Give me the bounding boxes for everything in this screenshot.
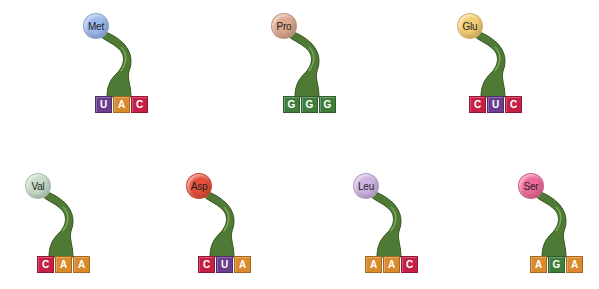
nucleotide-A: A [530,256,547,273]
nucleotide-A: A [365,256,382,273]
trna-ser: SerAGA [518,173,588,283]
anticodon: AGA [530,256,583,273]
amino-acid-val: Val [25,173,51,199]
anticodon: UAC [95,96,148,113]
trna-pro: ProGGG [271,13,341,123]
nucleotide-U: U [487,96,504,113]
amino-acid-leu: Leu [353,173,379,199]
nucleotide-G: G [283,96,300,113]
nucleotide-C: C [37,256,54,273]
amino-acid-met: Met [83,13,109,39]
nucleotide-C: C [131,96,148,113]
trna-asp: AspCUA [186,173,256,283]
anticodon: GGG [283,96,336,113]
amino-acid-glu: Glu [457,13,483,39]
nucleotide-G: G [301,96,318,113]
trna-met: MetUAC [83,13,153,123]
trna-val: ValCAA [25,173,95,283]
trna-glu: GluCUC [457,13,527,123]
nucleotide-G: G [319,96,336,113]
nucleotide-A: A [55,256,72,273]
nucleotide-A: A [383,256,400,273]
nucleotide-A: A [113,96,130,113]
nucleotide-C: C [469,96,486,113]
trna-leu: LeuAAC [353,173,423,283]
anticodon: CUA [198,256,251,273]
nucleotide-A: A [566,256,583,273]
nucleotide-U: U [95,96,112,113]
nucleotide-A: A [73,256,90,273]
nucleotide-C: C [198,256,215,273]
amino-acid-ser: Ser [518,173,544,199]
amino-acid-asp: Asp [186,173,212,199]
nucleotide-C: C [401,256,418,273]
nucleotide-C: C [505,96,522,113]
amino-acid-pro: Pro [271,13,297,39]
nucleotide-A: A [234,256,251,273]
nucleotide-U: U [216,256,233,273]
anticodon: AAC [365,256,418,273]
anticodon: CUC [469,96,522,113]
anticodon: CAA [37,256,90,273]
nucleotide-G: G [548,256,565,273]
